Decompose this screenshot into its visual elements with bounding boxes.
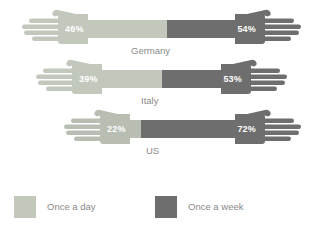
- value-label-left-germany: 46%: [65, 25, 84, 34]
- value-label-right-italy: 53%: [223, 75, 242, 84]
- bar-segment-dark-us: [141, 120, 237, 138]
- value-label-right-us: 72%: [237, 125, 256, 134]
- value-label-left-us: 22%: [107, 125, 126, 134]
- arm-graphic-germany: 46% 54%: [14, 8, 309, 50]
- arm-graphic-us: 22% 72%: [56, 108, 309, 150]
- bar-segment-light-us: [128, 120, 141, 138]
- legend-item-once-a-day: Once a day: [14, 196, 96, 218]
- bar-segment-dark-germany: [167, 20, 237, 38]
- handwashing-frequency-chart: 46% 54% Germany: [0, 0, 323, 235]
- category-label-us: US: [146, 146, 159, 156]
- bar-segment-light-germany: [86, 20, 167, 38]
- legend-swatch-once-a-week: [155, 196, 177, 218]
- arm-svg-germany: [14, 8, 309, 50]
- arm-graphic-italy: 39% 53%: [28, 58, 295, 100]
- legend-item-once-a-week: Once a week: [155, 196, 243, 218]
- bar-segment-dark-italy: [162, 70, 223, 88]
- arm-svg-italy: [28, 58, 295, 100]
- arm-svg-us: [56, 108, 309, 150]
- value-label-right-germany: 54%: [237, 25, 256, 34]
- legend-label-once-a-day: Once a day: [47, 202, 96, 212]
- value-label-left-italy: 39%: [79, 75, 98, 84]
- legend-label-once-a-week: Once a week: [188, 202, 243, 212]
- category-label-germany: Germany: [131, 46, 170, 56]
- chart-legend: Once a day Once a week: [0, 196, 323, 226]
- bar-segment-light-italy: [100, 70, 162, 88]
- category-label-italy: Italy: [141, 96, 158, 106]
- legend-swatch-once-a-day: [14, 196, 36, 218]
